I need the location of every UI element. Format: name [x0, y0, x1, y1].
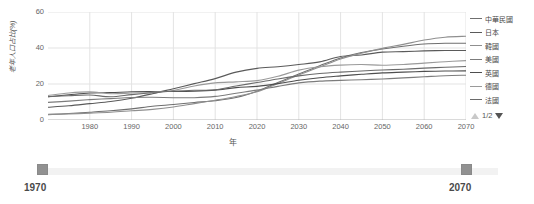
x-tick-label: 2010 [207, 122, 224, 131]
line-chart: 老年人口占比(%) 0204060 1980199020002010202020… [0, 0, 534, 152]
legend-color-swatch [470, 18, 482, 19]
legend-color-swatch [470, 99, 482, 100]
slider-handle-end[interactable] [461, 164, 472, 175]
x-tick-label: 2000 [165, 122, 182, 131]
slider-track[interactable] [40, 168, 498, 175]
chart-legend: 中華民國日本韓國美國英國德國法國 1/2 [470, 12, 534, 123]
slider-end-label: 2070 [449, 182, 471, 193]
plot-area [48, 12, 466, 120]
x-tick-label: 2060 [416, 122, 433, 131]
plot-svg [48, 12, 466, 120]
y-tick-label: 0 [22, 116, 44, 124]
legend-pager: 1/2 [470, 109, 534, 123]
legend-item[interactable]: 美國 [470, 53, 534, 67]
x-tick-label: 2050 [374, 122, 391, 131]
legend-item-label: 美國 [485, 54, 499, 64]
legend-item-label: 德國 [485, 81, 499, 91]
legend-item[interactable]: 法國 [470, 93, 534, 107]
legend-item-label: 韓國 [485, 41, 499, 51]
legend-color-swatch [470, 72, 482, 73]
legend-page-indicator: 1/2 [482, 111, 492, 120]
legend-item[interactable]: 中華民國 [470, 12, 534, 26]
triangle-down-icon[interactable] [495, 113, 503, 119]
legend-color-swatch [470, 86, 482, 87]
chart-widget: 老年人口占比(%) 0204060 1980199020002010202020… [0, 0, 534, 204]
x-tick-label: 2040 [332, 122, 349, 131]
x-tick-label: 1990 [123, 122, 140, 131]
legend-item[interactable]: 日本 [470, 26, 534, 40]
y-axis-title: 老年人口占比(%) [7, 11, 17, 83]
year-range-slider[interactable]: 1970 2070 [0, 158, 534, 204]
legend-color-swatch [470, 59, 482, 60]
legend-item-label: 英國 [485, 68, 499, 78]
y-tick-label: 20 [22, 80, 44, 88]
triangle-up-icon[interactable] [471, 113, 479, 119]
legend-item-label: 中華民國 [485, 14, 513, 24]
x-tick-label: 2020 [249, 122, 266, 131]
slider-handle-start[interactable] [37, 164, 48, 175]
y-axis-tick-labels: 0204060 [18, 0, 44, 152]
legend-item-list: 中華民國日本韓國美國英國德國法國 [470, 12, 534, 107]
legend-item[interactable]: 英國 [470, 66, 534, 80]
legend-item[interactable]: 德國 [470, 80, 534, 94]
x-tick-label: 2030 [290, 122, 307, 131]
slider-start-label: 1970 [24, 182, 46, 193]
x-axis-title: 年 [0, 136, 466, 147]
y-tick-label: 40 [22, 44, 44, 52]
x-tick-label: 2070 [458, 122, 475, 131]
legend-color-swatch [470, 32, 482, 33]
x-tick-label: 1980 [81, 122, 98, 131]
legend-item[interactable]: 韓國 [470, 39, 534, 53]
legend-color-swatch [470, 45, 482, 46]
legend-item-label: 日本 [485, 27, 499, 37]
x-axis-tick-labels: 1980199020002010202020302040205020602070 [48, 122, 466, 134]
legend-item-label: 法國 [485, 95, 499, 105]
y-tick-label: 60 [22, 8, 44, 16]
